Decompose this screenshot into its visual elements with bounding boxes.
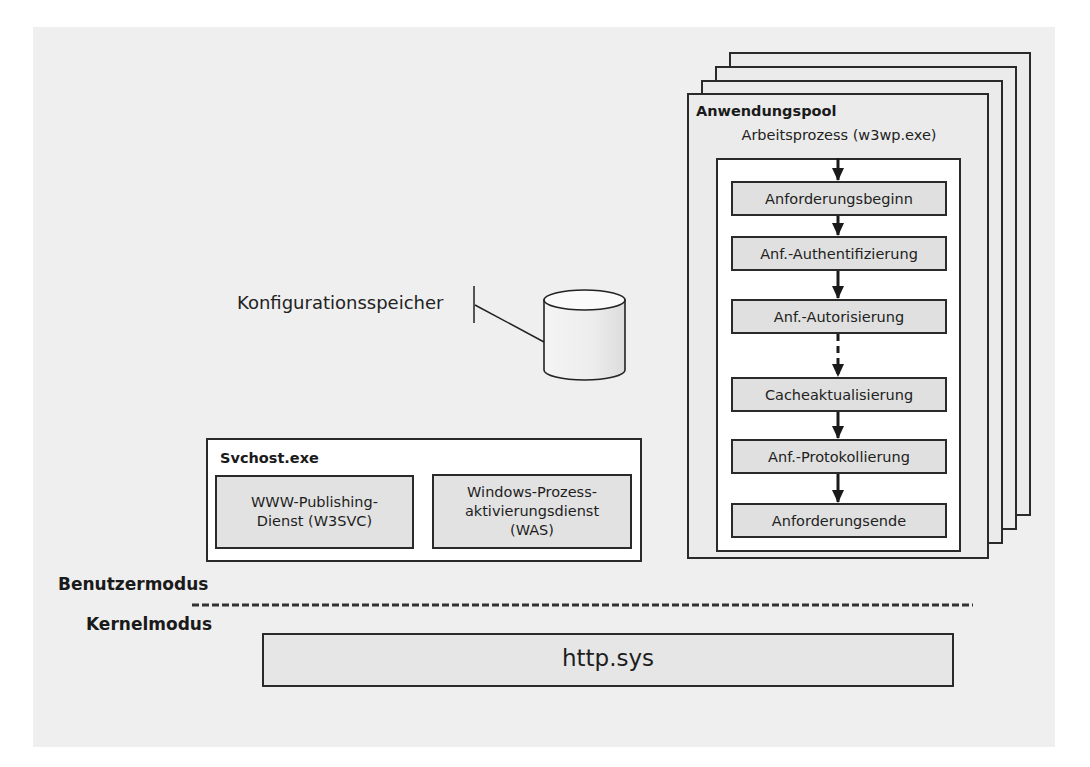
pipeline-step-logging: Anf.-Protokollierung xyxy=(731,439,947,474)
kernel-mode-label: Kernelmodus xyxy=(86,614,212,634)
pipeline-step-label: Anf.-Protokollierung xyxy=(768,449,910,465)
pipeline-step-label: Anf.-Authentifizierung xyxy=(760,246,918,262)
pipeline-step-request-begin: Anforderungsbeginn xyxy=(731,181,947,216)
svchost-title: Svchost.exe xyxy=(220,450,319,466)
pipeline-step-authentication: Anf.-Authentifizierung xyxy=(731,236,947,271)
was-service-box: Windows-Prozess- aktivierungsdienst (WAS… xyxy=(432,474,632,549)
pipeline-step-label: Anforderungsende xyxy=(772,513,906,529)
w3svc-service-box: WWW-Publishing- Dienst (W3SVC) xyxy=(215,475,414,549)
http-sys-box: http.sys xyxy=(262,633,954,687)
worker-process-box xyxy=(716,158,961,552)
app-pool-title: Anwendungspool xyxy=(696,103,836,119)
w3svc-line-2: Dienst (W3SVC) xyxy=(257,512,372,531)
pipeline-step-label: Anf.-Autorisierung xyxy=(774,309,904,325)
user-mode-label: Benutzermodus xyxy=(58,574,208,594)
http-sys-label: http.sys xyxy=(264,645,952,671)
pipeline-step-label: Anforderungsbeginn xyxy=(765,191,913,207)
pipeline-step-authorization: Anf.-Autorisierung xyxy=(731,299,947,334)
pipeline-step-label: Cacheaktualisierung xyxy=(765,387,913,403)
was-line-2: aktivierungsdienst xyxy=(465,502,599,521)
was-line-1: Windows-Prozess- xyxy=(467,483,597,502)
config-store-label: Konfigurationsspeicher xyxy=(237,292,443,313)
pipeline-step-request-end: Anforderungsende xyxy=(731,503,947,538)
worker-process-label: Arbeitsprozess (w3wp.exe) xyxy=(689,127,989,143)
was-line-3: (WAS) xyxy=(510,521,554,540)
pipeline-step-cache-update: Cacheaktualisierung xyxy=(731,377,947,412)
w3svc-line-1: WWW-Publishing- xyxy=(251,493,378,512)
